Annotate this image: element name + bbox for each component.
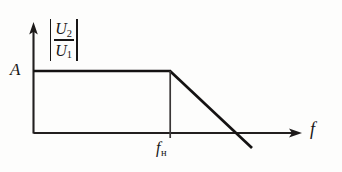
x-axis-cutoff-label: fн	[156, 140, 166, 156]
ratio-fraction: U2 U1	[54, 21, 74, 59]
figure-container: A U2 U1 fн f	[0, 0, 342, 172]
rolloff-slope	[170, 71, 252, 148]
abs-bar-right-icon	[76, 19, 78, 61]
y-axis-level-label-a: A	[10, 61, 21, 78]
cutoff-symbol: f	[156, 139, 160, 156]
y-axis-label: U2 U1	[47, 17, 80, 63]
cutoff-subscript: н	[161, 147, 167, 158]
fraction-numerator: U2	[54, 21, 73, 37]
fraction-bar	[54, 39, 74, 41]
numerator-subscript: 2	[67, 28, 72, 39]
x-axis-label: f	[310, 120, 315, 138]
abs-bar-left-icon	[50, 19, 52, 61]
numerator-symbol: U	[55, 20, 67, 37]
denominator-subscript: 1	[67, 49, 72, 60]
fraction-denominator: U1	[54, 43, 73, 59]
denominator-symbol: U	[55, 42, 67, 59]
